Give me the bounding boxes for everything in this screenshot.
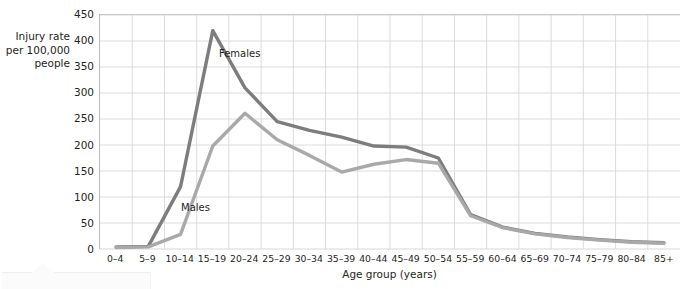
x-axis-title: Age group (years)	[99, 268, 680, 280]
x-tick-label-16: 80–84	[617, 253, 645, 264]
y-tick-label-200: 200	[62, 139, 94, 151]
y-tick-label-400: 400	[62, 34, 94, 46]
x-tick-label-10: 50–54	[424, 253, 452, 264]
x-tick-label-14: 70–74	[553, 253, 581, 264]
x-tick-label-6: 30–34	[295, 253, 323, 264]
series-line-males	[116, 113, 664, 247]
page-artifact-box	[2, 272, 151, 289]
x-tick-label-17: 85+	[654, 253, 674, 264]
x-tick-label-11: 55–59	[456, 253, 484, 264]
x-tick-label-3: 15–19	[198, 253, 226, 264]
y-tick-label-50: 50	[62, 217, 94, 229]
plot-area	[99, 14, 680, 249]
series-label-males: Males	[181, 202, 210, 213]
x-tick-label-2: 10–14	[166, 253, 194, 264]
y-tick-label-150: 150	[62, 165, 94, 177]
x-tick-label-8: 40–44	[359, 253, 387, 264]
y-tick-label-250: 250	[62, 112, 94, 124]
y-tick-label-300: 300	[62, 86, 94, 98]
x-tick-label-0: 0–4	[107, 253, 123, 264]
x-tick-label-9: 45–49	[391, 253, 419, 264]
x-tick-label-7: 35–39	[327, 253, 355, 264]
series-label-females: Females	[219, 48, 260, 59]
x-tick-label-4: 20–24	[230, 253, 258, 264]
x-tick-label-15: 75–79	[585, 253, 613, 264]
y-tick-label-0: 0	[62, 243, 94, 255]
y-tick-label-450: 450	[62, 8, 94, 20]
y-axis-tick-labels: 050100150200250300350400450	[60, 14, 94, 249]
series-line-females	[116, 31, 664, 247]
page-artifact-arrow-icon	[30, 263, 56, 274]
x-tick-label-12: 60–64	[488, 253, 516, 264]
series-lines	[100, 15, 680, 249]
x-axis-tick-labels: 0–45–910–1415–1920–2425–2930–3435–3940–4…	[99, 253, 680, 269]
x-tick-label-5: 25–29	[262, 253, 290, 264]
y-tick-label-350: 350	[62, 60, 94, 72]
x-tick-label-13: 65–69	[521, 253, 549, 264]
chart-page: Injury rate per 100,000 people 050100150…	[0, 0, 696, 289]
y-tick-label-100: 100	[62, 191, 94, 203]
x-tick-label-1: 5–9	[139, 253, 155, 264]
